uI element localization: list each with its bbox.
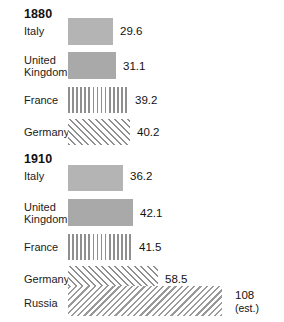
bar-row-1910-italy: Italy 36.2 — [0, 165, 284, 195]
bar-label-1880-italy: Italy — [24, 25, 66, 38]
bar-label-1910-germany: Germany — [24, 273, 66, 286]
bar-chart: 1880 Italy 29.6 United Kingdom 31.1 Fran… — [0, 0, 284, 322]
bar-row-1880-germany: Germany 40.2 — [0, 119, 284, 149]
bar-label-1910-uk-line2: Kingdom — [24, 213, 66, 226]
bar-label-1880-uk-line2: Kingdom — [24, 66, 66, 79]
bar-label-1910-italy: Italy — [24, 170, 66, 183]
bar-1880-france — [68, 87, 128, 113]
bar-1910-russia — [68, 286, 222, 316]
bar-label-1910-russia: Russia — [24, 297, 66, 310]
bar-value-1910-russia-number: 108 — [235, 289, 254, 301]
bar-row-1880-uk: United Kingdom 31.1 — [0, 52, 284, 84]
bar-1910-italy — [68, 165, 123, 191]
bar-row-1880-italy: Italy 29.6 — [0, 18, 284, 48]
bar-value-1910-germany: 58.5 — [165, 273, 187, 286]
bar-value-1910-russia-note: (est.) — [235, 302, 259, 314]
bar-value-1880-germany: 40.2 — [137, 126, 159, 139]
bar-label-1910-uk-line1: United — [24, 201, 66, 214]
bar-1880-italy — [68, 18, 113, 45]
bar-row-1910-france: France 41.5 — [0, 234, 284, 264]
bar-1910-france — [68, 234, 132, 260]
bar-value-1910-uk: 42.1 — [140, 207, 162, 220]
bar-value-1880-uk: 31.1 — [123, 60, 145, 73]
bar-value-1880-france: 39.2 — [135, 94, 157, 107]
group-title-1910: 1910 — [24, 152, 52, 166]
bar-label-1880-germany: Germany — [24, 126, 66, 139]
bar-value-1910-russia: 108 (est.) — [235, 289, 259, 314]
bar-label-1910-france: France — [24, 241, 66, 254]
bar-value-1910-italy: 36.2 — [130, 170, 152, 183]
bar-row-1910-uk: United Kingdom 42.1 — [0, 199, 284, 231]
bar-value-1880-italy: 29.6 — [120, 25, 142, 38]
bar-label-1880-france: France — [24, 94, 66, 107]
bar-1910-uk — [68, 199, 133, 226]
bar-value-1910-france: 41.5 — [139, 241, 161, 254]
bar-1880-germany — [68, 119, 130, 145]
bar-row-1910-russia: Russia 108 (est.) — [0, 286, 284, 320]
bar-row-1880-france: France 39.2 — [0, 87, 284, 117]
bar-label-1880-uk-line1: United — [24, 54, 66, 67]
bar-1880-uk — [68, 52, 116, 79]
